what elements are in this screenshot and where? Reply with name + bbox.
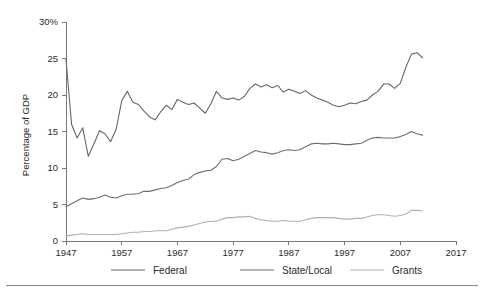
legend-label-state-local: State/Local	[282, 265, 332, 276]
series-line-grants	[66, 210, 423, 236]
x-tick-label: 2007	[390, 247, 411, 258]
legend-label-federal: Federal	[153, 265, 187, 276]
line-chart-svg: Percentage of GDP 051015202530% 19471957…	[0, 0, 484, 295]
series-line-federal	[66, 53, 423, 157]
y-tick-label: 10	[47, 162, 58, 173]
y-tick-label: 0	[53, 235, 58, 246]
y-axis-label: Percentage of GDP	[20, 94, 31, 176]
x-tick-label: 1967	[167, 247, 188, 258]
chart-figure: Percentage of GDP 051015202530% 19471957…	[0, 0, 484, 295]
legend-label-grants: Grants	[392, 265, 422, 276]
chart-legend: FederalState/LocalGrants	[111, 265, 422, 276]
series-line-state-local	[66, 132, 423, 207]
x-tick-label: 1987	[278, 247, 299, 258]
y-tick-label: 15	[47, 126, 58, 137]
y-tick-label: 5	[53, 199, 58, 210]
y-tick-label: 30%	[39, 16, 59, 27]
data-series-group	[66, 53, 423, 236]
y-axis-ticks: 051015202530%	[39, 16, 66, 246]
x-axis-ticks: 19471957196719771987199720072017	[55, 241, 466, 258]
y-tick-label: 20	[47, 89, 58, 100]
y-tick-label: 25	[47, 53, 58, 64]
x-tick-label: 2017	[445, 247, 466, 258]
x-tick-label: 1947	[55, 247, 76, 258]
x-tick-label: 1977	[223, 247, 244, 258]
x-tick-label: 1997	[334, 247, 355, 258]
y-axis-label-text: Percentage of GDP	[20, 94, 31, 176]
x-tick-label: 1957	[111, 247, 132, 258]
